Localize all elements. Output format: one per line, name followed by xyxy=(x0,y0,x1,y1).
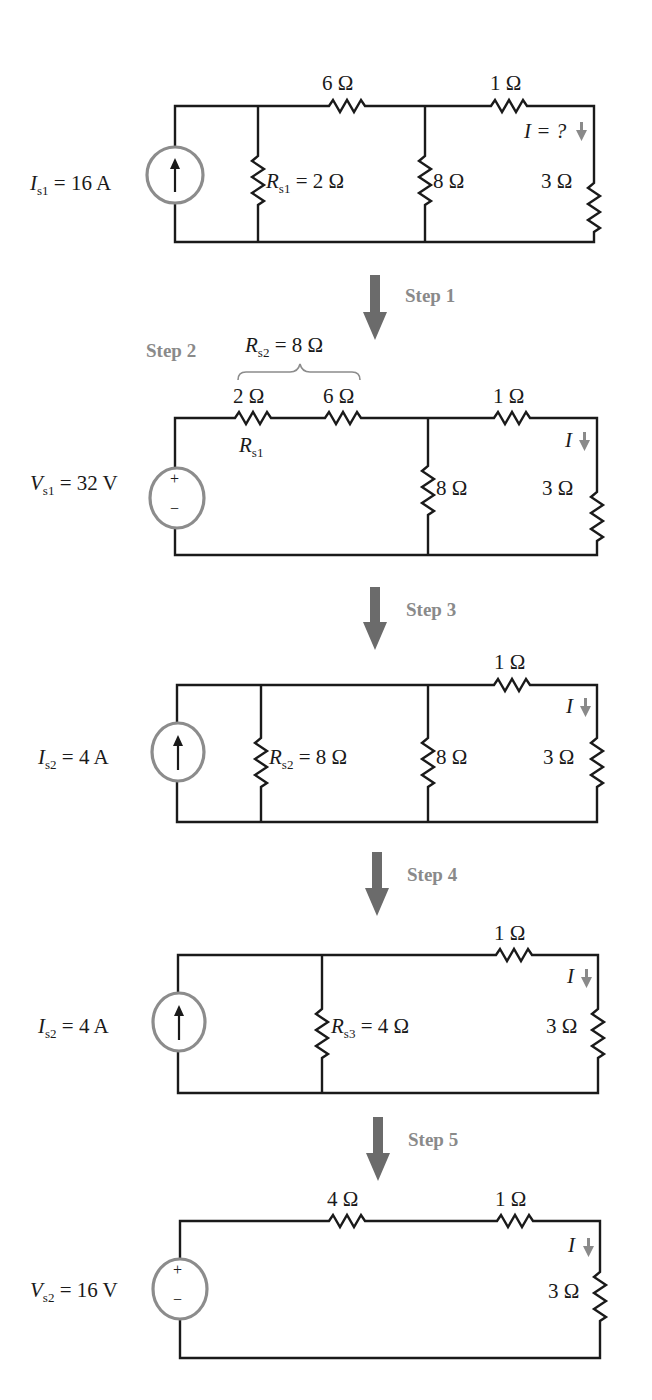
step-1-arrow: Step 1 xyxy=(363,275,455,340)
label-3ohm: 3 Ω xyxy=(548,1279,579,1303)
label-current: I xyxy=(567,1233,576,1257)
resistor-1ohm xyxy=(493,1215,537,1227)
resistor-rs1 xyxy=(252,150,264,210)
source-label: Is2 = 4 A xyxy=(37,1014,109,1041)
label-current: I xyxy=(565,694,574,718)
current-arrow-icon xyxy=(580,698,591,717)
current-arrow-icon xyxy=(583,1238,594,1257)
label-6ohm: 6 Ω xyxy=(322,71,353,95)
step-5-label: Step 5 xyxy=(408,1129,458,1150)
label-3ohm: 3 Ω xyxy=(543,745,574,769)
resistor-4ohm xyxy=(325,1215,369,1227)
resistor-rs3 xyxy=(316,1003,328,1063)
current-arrow-icon xyxy=(576,122,587,141)
resistor-8ohm xyxy=(422,460,434,520)
resistor-6ohm xyxy=(321,412,365,424)
plus-sign: + xyxy=(170,470,179,487)
circuit-original: Is1 = 16 A 6 Ω 1 Ω Rs1 = 2 Ω 8 Ω 3 Ω I =… xyxy=(29,71,600,242)
resistor-1ohm xyxy=(487,100,531,112)
step-4-label: Step 4 xyxy=(407,864,458,885)
source-transformation-diagram: Is1 = 16 A 6 Ω 1 Ω Rs1 = 2 Ω 8 Ω 3 Ω I =… xyxy=(0,0,652,1400)
circuit-step5: + − Vs2 = 16 V 4 Ω 1 Ω 3 Ω I xyxy=(30,1187,606,1358)
label-1ohm: 1 Ω xyxy=(494,921,525,945)
label-rs3: Rs3 = 4 Ω xyxy=(330,1014,409,1041)
resistor-8ohm xyxy=(419,150,431,210)
step-5-arrow: Step 5 xyxy=(366,1117,458,1181)
current-arrow-icon xyxy=(579,432,590,451)
resistor-1ohm xyxy=(490,412,534,424)
label-8ohm: 8 Ω xyxy=(433,169,464,193)
label-6ohm: 6 Ω xyxy=(323,384,354,408)
step-3-arrow: Step 3 xyxy=(363,587,456,650)
label-current: I xyxy=(564,428,573,452)
label-rs1: Rs1 = 2 Ω xyxy=(265,169,344,196)
label-3ohm: 3 Ω xyxy=(546,1014,577,1038)
step-2-label: Step 2 xyxy=(146,340,196,361)
resistor-3ohm xyxy=(588,177,600,237)
circuit-step3: Is2 = 4 A 1 Ω Rs2 = 8 Ω 8 Ω 3 Ω I xyxy=(37,650,603,822)
label-1ohm: 1 Ω xyxy=(490,71,521,95)
resistor-3ohm xyxy=(594,1266,606,1326)
label-rs1: Rs1 xyxy=(238,433,263,460)
step-1-label: Step 1 xyxy=(405,285,455,306)
brace-icon xyxy=(238,364,360,380)
source-label: Vs1 = 32 V xyxy=(30,471,118,498)
label-8ohm: 8 Ω xyxy=(436,745,467,769)
resistor-6ohm xyxy=(325,100,369,112)
label-2ohm: 2 Ω xyxy=(233,384,264,408)
circuit-step4: Is2 = 4 A 1 Ω Rs3 = 4 Ω 3 Ω I xyxy=(37,921,604,1093)
resistor-3ohm xyxy=(591,732,603,792)
label-8ohm: 8 Ω xyxy=(436,476,467,500)
label-1ohm: 1 Ω xyxy=(494,650,525,674)
resistor-8ohm xyxy=(422,732,434,792)
resistor-1ohm xyxy=(490,679,534,691)
label-3ohm: 3 Ω xyxy=(542,476,573,500)
resistor-3ohm xyxy=(591,486,603,546)
resistor-rs1 xyxy=(231,412,275,424)
label-3ohm: 3 Ω xyxy=(541,169,572,193)
label-1ohm: 1 Ω xyxy=(495,1187,526,1211)
label-current: I xyxy=(566,964,575,988)
resistor-1ohm xyxy=(492,949,536,961)
source-label: Vs2 = 16 V xyxy=(30,1278,118,1305)
label-rs2: Rs2 = 8 Ω xyxy=(268,745,347,772)
label-1ohm: 1 Ω xyxy=(493,384,524,408)
resistor-rs2 xyxy=(255,732,267,792)
source-label: Is1 = 16 A xyxy=(29,171,112,198)
current-arrow-icon xyxy=(581,969,592,988)
source-label: Is2 = 4 A xyxy=(37,745,109,772)
step-3-label: Step 3 xyxy=(406,599,456,620)
resistor-3ohm xyxy=(592,1003,604,1063)
minus-sign: − xyxy=(170,500,179,517)
label-rs2: Rs2 = 8 Ω xyxy=(244,333,323,360)
minus-sign: − xyxy=(173,1291,182,1308)
label-4ohm: 4 Ω xyxy=(327,1187,358,1211)
plus-sign: + xyxy=(173,1261,182,1278)
circuit-step2: Step 2 Rs2 = 8 Ω + − Vs1 = 32 V 2 Ω 6 Ω … xyxy=(30,333,603,555)
step-4-arrow: Step 4 xyxy=(365,852,458,916)
label-current: I = ? xyxy=(523,119,567,143)
